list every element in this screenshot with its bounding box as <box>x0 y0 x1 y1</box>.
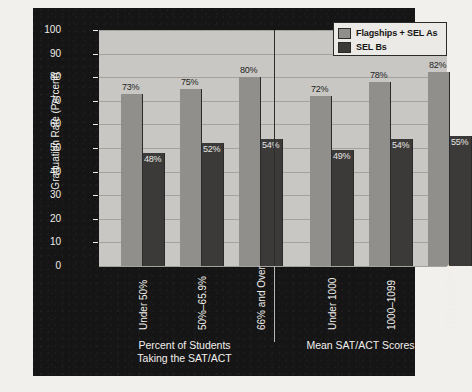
bar-value-label: 54% <box>392 141 409 150</box>
y-axis-tick-label: 30 <box>33 190 61 200</box>
legend-swatch-icon-dark <box>338 42 351 53</box>
group-divider-line <box>274 30 275 266</box>
y-axis-tick-mark <box>93 124 98 125</box>
y-axis-tick-mark <box>93 148 98 149</box>
category-label: 50%–65.9% <box>198 276 208 330</box>
group-title: Mean SAT/ACT Scores <box>274 339 447 352</box>
bar-value-label: 54% <box>262 141 279 150</box>
y-axis-tick-label: 10 <box>33 237 61 247</box>
legend-swatch-icon-light <box>338 28 351 39</box>
bar-value-label: 48% <box>144 155 161 164</box>
category-label: 1000–1099 <box>387 280 397 330</box>
gridline <box>99 266 447 267</box>
legend-entry-sel-bs: SEL Bs <box>338 40 442 54</box>
bar-value-label: 73% <box>122 83 139 92</box>
legend-label-flagships-sel-as: Flagships + SEL As <box>356 29 437 38</box>
y-axis-tick-mark <box>93 219 98 220</box>
bar <box>332 150 354 266</box>
bar <box>202 143 224 266</box>
bar-value-label: 78% <box>370 71 387 80</box>
legend-entry-flagships-sel-as: Flagships + SEL As <box>338 26 442 40</box>
y-axis-tick-label: 0 <box>33 261 61 271</box>
bar-value-label: 80% <box>240 66 257 75</box>
y-axis-tick-label: 60 <box>33 119 61 129</box>
bar <box>450 136 472 266</box>
bar-value-label: 75% <box>181 78 198 87</box>
bar <box>143 153 165 266</box>
y-axis-tick-label: 40 <box>33 167 61 177</box>
y-axis-tick-mark <box>93 242 98 243</box>
y-axis-tick-label: 50 <box>33 143 61 153</box>
group-divider-extension <box>274 266 275 342</box>
bar <box>180 89 202 266</box>
bar <box>239 77 261 266</box>
bar <box>261 139 283 266</box>
bar-value-label: 72% <box>311 85 328 94</box>
y-axis-tick-mark <box>93 101 98 102</box>
chart-panel: Graduation Rate (Percent) 73%48%75%52%80… <box>33 8 415 376</box>
y-axis-tick-mark <box>93 77 98 78</box>
category-label: 1100 and Over <box>446 265 456 330</box>
y-axis-tick-label: 90 <box>33 49 61 59</box>
category-label: Under 1000 <box>328 278 338 330</box>
y-axis-tick-mark <box>93 195 98 196</box>
y-axis-tick-mark <box>93 54 98 55</box>
bar-value-label: 52% <box>203 145 220 154</box>
chart-legend: Flagships + SEL As SEL Bs <box>333 22 447 56</box>
y-axis-tick-mark <box>93 172 98 173</box>
bar <box>121 94 143 266</box>
bar <box>428 72 450 266</box>
bar <box>369 82 391 266</box>
bar <box>391 139 413 266</box>
bar-value-label: 49% <box>333 152 350 161</box>
plot-area: 73%48%75%52%80%54%72%49%78%54%82%55% <box>99 30 447 266</box>
category-label: 66% and Over <box>257 266 267 330</box>
y-axis-tick-label: 70 <box>33 96 61 106</box>
bar <box>310 96 332 266</box>
y-axis-tick-mark <box>93 30 98 31</box>
y-axis-tick-label: 100 <box>33 25 61 35</box>
bar-value-label: 55% <box>451 138 468 147</box>
legend-label-sel-bs: SEL Bs <box>356 43 387 52</box>
y-axis-tick-label: 20 <box>33 214 61 224</box>
bar-series-container: 73%48%75%52%80%54%72%49%78%54%82%55% <box>99 30 447 266</box>
y-axis-tick-label: 80 <box>33 72 61 82</box>
category-label: Under 50% <box>139 280 149 330</box>
bar-value-label: 82% <box>429 61 446 70</box>
group-title: Percent of Students Taking the SAT/ACT <box>95 339 274 365</box>
